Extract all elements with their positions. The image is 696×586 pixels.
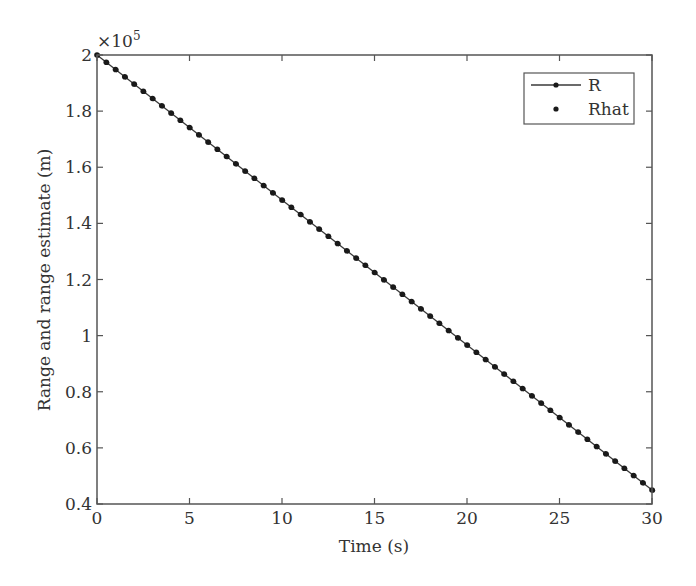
series-rhat-marker bbox=[142, 90, 146, 94]
legend-marker-r bbox=[553, 82, 558, 87]
series-rhat-marker bbox=[595, 445, 599, 449]
series-rhat-marker bbox=[179, 119, 183, 123]
series-rhat-marker bbox=[262, 184, 266, 188]
series-rhat-marker bbox=[151, 97, 155, 101]
y-tick-label: 0.8 bbox=[65, 382, 92, 402]
y-tick-label: 1 bbox=[81, 326, 92, 346]
series-rhat-marker bbox=[281, 198, 285, 202]
y-tick-label: 2 bbox=[81, 45, 92, 65]
series-rhat-marker bbox=[290, 206, 294, 210]
series-rhat-marker bbox=[558, 416, 562, 420]
series-rhat-marker bbox=[605, 452, 609, 456]
y-tick-label: 1.4 bbox=[65, 213, 92, 233]
y-tick-label: 1.8 bbox=[65, 101, 92, 121]
series-rhat-marker bbox=[401, 293, 405, 297]
y-axis-label: Range and range estimate (m) bbox=[34, 149, 54, 412]
x-tick-label: 30 bbox=[641, 508, 663, 528]
series-rhat-marker bbox=[438, 322, 442, 326]
series-rhat-marker bbox=[244, 169, 248, 173]
legend-label-rhat: Rhat bbox=[588, 99, 629, 119]
series-rhat-marker bbox=[494, 365, 498, 369]
series-rhat-marker bbox=[521, 387, 525, 391]
x-tick-label: 10 bbox=[271, 508, 293, 528]
legend-marker-rhat bbox=[553, 106, 558, 111]
series-rhat-marker bbox=[336, 242, 340, 246]
x-axis-label: Time (s) bbox=[339, 536, 409, 556]
y-tick-label: 1.2 bbox=[65, 270, 92, 290]
x-tick-label: 15 bbox=[364, 508, 386, 528]
series-rhat-marker bbox=[503, 372, 507, 376]
series-rhat-marker bbox=[346, 249, 350, 253]
x-tick-label: 5 bbox=[184, 508, 195, 528]
series-rhat-marker bbox=[586, 438, 590, 442]
series-rhat-marker bbox=[235, 162, 239, 166]
series-rhat-marker bbox=[327, 235, 331, 239]
series-rhat-marker bbox=[549, 409, 553, 413]
series-rhat-marker bbox=[447, 329, 451, 333]
series-rhat-marker bbox=[410, 300, 414, 304]
series-rhat-marker bbox=[457, 336, 461, 340]
y-tick-label: 0.6 bbox=[65, 438, 92, 458]
x-tick-label: 0 bbox=[92, 508, 103, 528]
series-rhat-marker bbox=[392, 285, 396, 289]
series-rhat-marker bbox=[318, 227, 322, 231]
y-multiplier: ×105 bbox=[97, 29, 141, 51]
series-rhat-marker bbox=[188, 126, 192, 130]
series-rhat-marker bbox=[170, 111, 174, 115]
series-rhat-marker bbox=[614, 459, 618, 463]
series-rhat-marker bbox=[216, 148, 220, 152]
series-rhat-marker bbox=[207, 140, 211, 144]
x-tick-label: 20 bbox=[456, 508, 478, 528]
series-rhat-marker bbox=[642, 481, 646, 485]
series-rhat-marker bbox=[512, 380, 516, 384]
series-rhat-marker bbox=[309, 220, 313, 224]
series-rhat-marker bbox=[124, 75, 128, 79]
series-rhat-marker bbox=[105, 61, 109, 65]
legend-label-r: R bbox=[588, 75, 602, 95]
series-rhat-marker bbox=[253, 177, 257, 181]
series-rhat-marker bbox=[225, 155, 229, 159]
series-rhat-marker bbox=[114, 68, 118, 72]
series-rhat-marker bbox=[420, 307, 424, 311]
series-rhat-marker bbox=[623, 467, 627, 471]
y-tick-label: 1.6 bbox=[65, 157, 92, 177]
series-rhat-marker bbox=[133, 82, 137, 86]
series-rhat-marker bbox=[299, 213, 303, 217]
series-rhat-marker bbox=[272, 191, 276, 195]
series-rhat-marker bbox=[364, 264, 368, 268]
series-rhat-marker bbox=[373, 271, 377, 275]
y-tick-label: 0.4 bbox=[65, 494, 92, 514]
series-rhat-marker bbox=[632, 474, 636, 478]
series-rhat-marker bbox=[484, 358, 488, 362]
series-rhat-marker bbox=[466, 343, 470, 347]
series-rhat-marker bbox=[475, 351, 479, 355]
series-rhat-marker bbox=[161, 104, 165, 108]
series-rhat-marker bbox=[198, 133, 202, 137]
series-rhat-marker bbox=[383, 278, 387, 282]
series-rhat-marker bbox=[568, 423, 572, 427]
series-rhat-marker bbox=[540, 401, 544, 405]
series-rhat-marker bbox=[531, 394, 535, 398]
range-chart: 0510152025300.40.60.811.21.41.61.82 ×105… bbox=[0, 0, 696, 586]
series-rhat-marker bbox=[355, 256, 359, 260]
x-tick-label: 25 bbox=[549, 508, 571, 528]
series-rhat-marker bbox=[429, 314, 433, 318]
legend: R Rhat bbox=[524, 73, 634, 124]
series-rhat-marker bbox=[577, 430, 581, 434]
